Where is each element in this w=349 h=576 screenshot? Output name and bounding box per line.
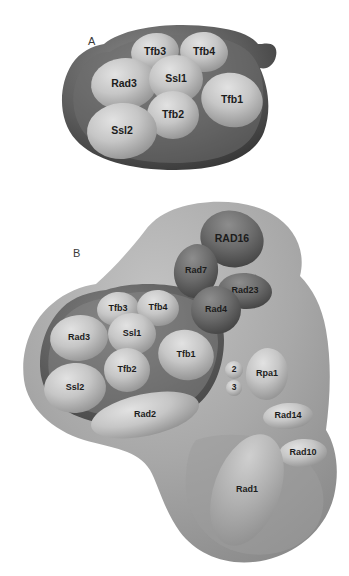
subunit-tfb2: Tfb2 xyxy=(104,348,150,392)
subunit-label-tfb3: Tfb3 xyxy=(109,303,128,313)
subunit-rad14: Rad14 xyxy=(262,401,314,430)
subunit-label-tfb3: Tfb3 xyxy=(144,45,166,57)
subunit-rpa2: 2 xyxy=(225,361,243,379)
subunit-label-rad3: Rad3 xyxy=(68,332,90,342)
subunit-label-tfb1: Tfb1 xyxy=(221,93,243,105)
subunit-tfb1: Tfb1 xyxy=(195,66,269,135)
subunit-label-rpa1: Rpa1 xyxy=(256,368,278,378)
subunit-label-rpa2: 2 xyxy=(232,364,237,374)
subunit-label-rad3: Rad3 xyxy=(111,77,137,89)
subunit-rad10: Rad10 xyxy=(278,437,328,468)
subunit-label-tfb2: Tfb2 xyxy=(118,364,137,374)
subunit-label-rad14: Rad14 xyxy=(274,410,301,420)
subunit-rad4: Rad4 xyxy=(191,286,241,334)
subunit-label-rad4: Rad4 xyxy=(205,304,227,314)
subunit-label-rad10: Rad10 xyxy=(289,447,316,457)
subunit-rad3: Rad3 xyxy=(48,312,110,364)
subunit-ssl2: Ssl2 xyxy=(42,361,107,415)
subunit-label-tfb2: Tfb2 xyxy=(162,108,184,120)
panel-a-subunits: Tfb3Tfb4Rad3Ssl1Tfb1Tfb2Ssl2 xyxy=(85,30,269,162)
subunit-rpa3: 3 xyxy=(226,380,242,396)
panel-b-subunits: RAD16Rad7Rad23Rad4Tfb3Tfb4Rad3Ssl1Tfb1Tf… xyxy=(42,202,328,555)
subunit-label-rad7: Rad7 xyxy=(185,265,207,275)
subunit-label-rad16: RAD16 xyxy=(215,232,250,244)
subunit-label-rpa3: 3 xyxy=(232,382,237,392)
subunit-label-ssl1: Ssl1 xyxy=(123,328,142,338)
subunit-tfb1: Tfb1 xyxy=(153,324,219,386)
subunit-rad1: Rad1 xyxy=(196,424,298,556)
subunit-label-tfb1: Tfb1 xyxy=(177,349,196,359)
subunit-rpa1: Rpa1 xyxy=(243,346,290,402)
subunit-label-tfb4: Tfb4 xyxy=(149,302,168,312)
subunit-label-rad1: Rad1 xyxy=(236,484,258,494)
subunit-overlay: Tfb3Tfb4Rad3Ssl1Tfb1Tfb2Ssl2 RAD16Rad7Ra… xyxy=(0,0,349,576)
subunit-label-ssl2: Ssl2 xyxy=(111,124,133,136)
subunit-label-ssl1: Ssl1 xyxy=(165,72,187,84)
subunit-label-tfb4: Tfb4 xyxy=(193,45,215,57)
figure-container: A B Tfb3Tfb4Rad3Ssl1Tfb1Tfb2Ssl2 RAD16Ra… xyxy=(0,0,349,576)
subunit-label-rad2: Rad2 xyxy=(134,409,156,419)
subunit-label-rad23: Rad23 xyxy=(231,285,258,295)
subunit-label-ssl2: Ssl2 xyxy=(66,382,85,392)
